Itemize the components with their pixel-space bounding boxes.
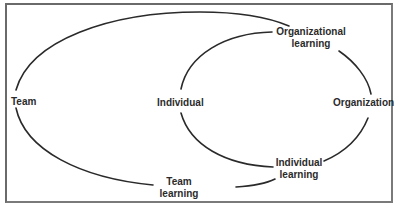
outer-arc-team-learning-to-ind-learning: [236, 179, 275, 187]
org-learning-line2: learning: [274, 38, 348, 50]
outer-arc-team-to-team-learning: [16, 108, 153, 185]
inner-arc-individual-to-ind-learning: [181, 113, 273, 167]
inner-arc-individual-to-org-learning: [181, 32, 272, 89]
node-individual-learning: Individual learning: [274, 157, 324, 181]
ind-learning-line2: learning: [274, 169, 324, 181]
team-learning-line2: learning: [159, 188, 199, 200]
node-team-learning: Team learning: [159, 176, 199, 200]
node-individual: Individual: [157, 97, 204, 109]
inner-arc-organization-to-ind-learning: [324, 118, 368, 161]
org-learning-line1: Organizational: [274, 26, 348, 38]
node-team: Team: [11, 96, 36, 108]
team-learning-line1: Team: [159, 176, 199, 188]
inner-arc-org-learning-to-organization: [339, 51, 371, 94]
node-organization: Organization: [333, 97, 394, 109]
ind-learning-line1: Individual: [274, 157, 324, 169]
node-organizational-learning: Organizational learning: [274, 26, 348, 50]
outer-arc-team-to-org-learning: [16, 12, 289, 90]
